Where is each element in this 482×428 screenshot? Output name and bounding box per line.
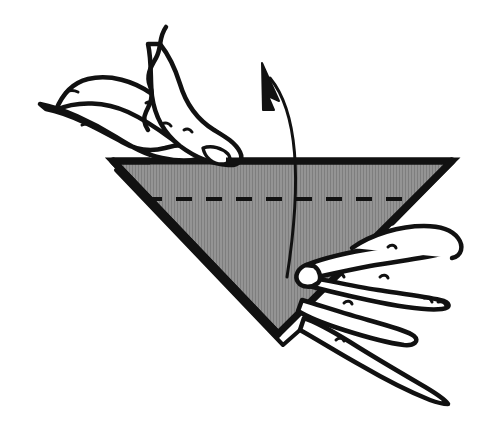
diagram-canvas: Origami fold step: two hands holding a s…	[0, 0, 482, 428]
right-hand-thumb-pad	[296, 265, 320, 287]
left-hand-knuckle-tick-1	[66, 91, 78, 93]
origami-diagram-figure: Origami fold step: two hands holding a s…	[0, 0, 482, 428]
